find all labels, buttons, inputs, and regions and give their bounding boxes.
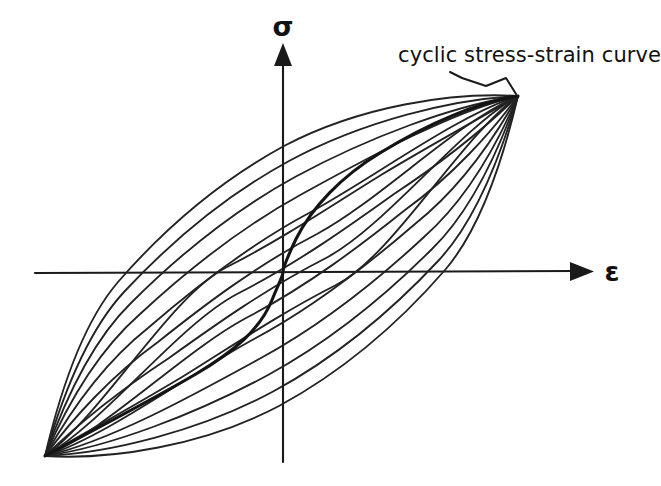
figure-root: σ ε cyclic stress-strain curve [0,0,661,486]
cyclic-stress-strain-curve-label: cyclic stress-strain curve [398,43,661,67]
stress-strain-figure: σ ε cyclic stress-strain curve [0,0,661,486]
y-axis-label-sigma: σ [272,11,293,42]
x-axis-label-epsilon: ε [604,256,619,287]
